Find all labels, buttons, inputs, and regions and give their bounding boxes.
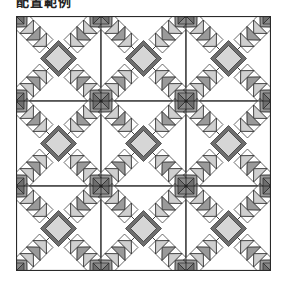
quilt-block: [184, 99, 271, 189]
quilt-block: [99, 99, 189, 189]
junction-square: [263, 263, 271, 271]
quilt-block: [16, 16, 103, 103]
junction-square: [16, 263, 24, 271]
page-title: 配置範例: [16, 0, 72, 10]
quilt-block: [184, 184, 271, 271]
quilt-block: [16, 99, 103, 189]
junction-square: [263, 16, 271, 24]
quilt-pattern-image: [16, 16, 271, 271]
quilt-block: [99, 184, 189, 271]
quilt-block: [16, 184, 103, 271]
quilt-block: [99, 16, 189, 103]
quilt-block: [184, 16, 271, 103]
junction-square: [16, 16, 24, 24]
